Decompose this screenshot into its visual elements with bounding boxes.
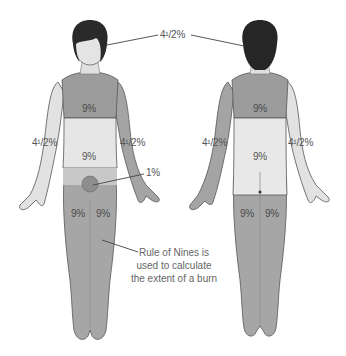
back-left-leg-label: 9% (240, 209, 254, 219)
front-figure (20, 20, 160, 339)
caption-line-3: the extent of a burn (124, 272, 224, 285)
front-genital-label: 1% (146, 168, 160, 178)
back-right-arm-label: 4¹/2% (288, 138, 313, 148)
rule-of-nines-caption: Rule of Nines is used to calculate the e… (124, 246, 224, 285)
back-figure (190, 20, 330, 336)
body-figures (0, 0, 346, 356)
caption-line-2: used to calculate (124, 259, 224, 272)
front-abdomen-label: 9% (82, 152, 96, 162)
back-upper-label: 9% (253, 104, 267, 114)
front-right-leg-label: 9% (96, 209, 110, 219)
caption-line-1: Rule of Nines is (124, 246, 224, 259)
front-left-arm-label: 4¹/2% (32, 138, 57, 148)
back-left-arm-label: 4¹/2% (202, 138, 227, 148)
back-lower-label: 9% (253, 152, 267, 162)
back-right-leg-label: 9% (265, 209, 279, 219)
head-percent-label: 4¹/2% (160, 30, 185, 40)
front-chest-label: 9% (82, 104, 96, 114)
back-head (242, 20, 277, 70)
front-left-leg-label: 9% (71, 209, 85, 219)
front-right-arm-label: 4¹/2% (120, 138, 145, 148)
rule-of-nines-diagram: 4¹/2% 9% 4¹/2% 4¹/2% 9% 1% 9% 9% 9% 4¹/2… (0, 0, 346, 356)
